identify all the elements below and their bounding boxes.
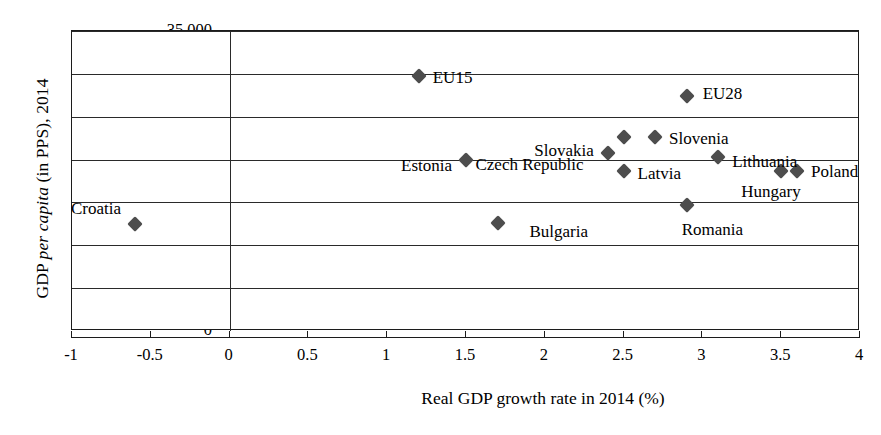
x-axis-tick-label: 3.5 <box>745 345 815 365</box>
data-label-bulgaria: Bulgaria <box>530 223 589 240</box>
gridline <box>72 31 858 32</box>
x-axis-tick <box>780 331 781 338</box>
x-axis-tick-label: 2.5 <box>588 345 658 365</box>
x-axis-tick <box>859 331 860 338</box>
data-point-slovakia[interactable] <box>600 145 616 161</box>
x-axis: -1-0.500.511.522.533.54 <box>71 337 859 338</box>
x-axis-tick <box>465 331 466 338</box>
data-point-estonia[interactable] <box>458 152 474 168</box>
x-axis-tick-label: 1 <box>351 345 421 365</box>
x-axis-tick <box>623 331 624 338</box>
gridline <box>72 202 858 203</box>
zero-value-axis-line <box>230 31 231 331</box>
y-axis-title-italic: per capita <box>32 187 52 259</box>
data-label-estonia: Estonia <box>401 156 452 173</box>
x-axis-tick <box>307 331 308 338</box>
data-point-eu28[interactable] <box>679 88 695 104</box>
gridline <box>72 245 858 246</box>
gridline <box>72 288 858 289</box>
data-label-romania: Romania <box>682 221 743 238</box>
x-axis-tick-label: -1 <box>36 345 106 365</box>
x-axis-tick <box>71 331 72 338</box>
x-axis-tick-label: 4 <box>824 345 881 365</box>
x-axis-tick-label: 1.5 <box>430 345 500 365</box>
x-axis-tick <box>229 331 230 338</box>
x-axis-tick <box>150 331 151 338</box>
data-point-romania[interactable] <box>679 197 695 213</box>
gridline <box>72 117 858 118</box>
x-axis-tick-label: 2 <box>509 345 579 365</box>
data-point-bulgaria[interactable] <box>490 215 506 231</box>
data-label-croatia: Croatia <box>71 199 121 216</box>
data-point-latvia[interactable] <box>616 163 632 179</box>
x-axis-tick <box>386 331 387 338</box>
gdp-scatter-chart: GDP per capita (in PPS), 2014 05,00010,0… <box>0 0 881 435</box>
x-axis-title: Real GDP growth rate in 2014 (%) <box>227 388 859 409</box>
data-point-slovenia[interactable] <box>647 130 663 146</box>
y-axis-title-prefix: GDP <box>32 259 52 298</box>
x-axis-tick-label: -0.5 <box>115 345 185 365</box>
plot-area: CroatiaEU15EstoniaBulgariaSlovakiaCzech … <box>71 30 859 330</box>
x-axis-tick-label: 3 <box>666 345 736 365</box>
data-point-lithuania[interactable] <box>710 149 726 165</box>
data-point-eu15[interactable] <box>411 68 427 84</box>
y-axis-title-suffix: (in PPS), 2014 <box>32 78 52 186</box>
x-axis-tick-label: 0.5 <box>272 345 342 365</box>
x-axis-tick-label: 0 <box>194 345 264 365</box>
data-label-latvia: Latvia <box>638 164 681 181</box>
y-axis-title: GDP per capita (in PPS), 2014 <box>32 29 53 349</box>
data-label-eu15: EU15 <box>433 68 473 85</box>
data-label-eu28: EU28 <box>703 85 743 102</box>
data-point-czech-republic[interactable] <box>616 130 632 146</box>
x-axis-tick <box>701 331 702 338</box>
data-label-czech-republic: Czech Republic <box>475 156 583 173</box>
data-label-slovenia: Slovenia <box>669 130 729 147</box>
data-label-hungary: Hungary <box>741 182 800 199</box>
x-axis-tick <box>544 331 545 338</box>
data-point-croatia[interactable] <box>127 216 143 232</box>
data-label-poland: Poland <box>811 162 858 179</box>
data-label-lithuania: Lithuania <box>732 153 797 170</box>
